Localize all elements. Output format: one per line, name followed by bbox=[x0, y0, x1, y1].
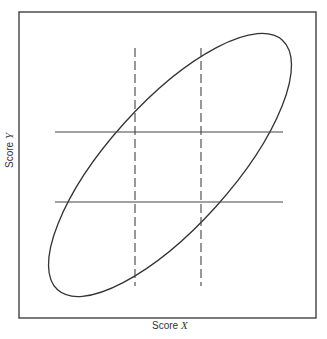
diagram-canvas bbox=[0, 0, 327, 339]
y-axis-variable: Y bbox=[3, 133, 15, 139]
y-axis-label-prefix: Score bbox=[4, 139, 15, 168]
x-axis-variable: X bbox=[181, 319, 188, 331]
x-axis-label-prefix: Score bbox=[152, 320, 181, 331]
x-axis-label: Score X bbox=[152, 319, 188, 331]
plot-frame bbox=[19, 12, 316, 318]
correlation-ellipse bbox=[12, 0, 327, 331]
y-axis-label: Score Y bbox=[3, 133, 15, 168]
